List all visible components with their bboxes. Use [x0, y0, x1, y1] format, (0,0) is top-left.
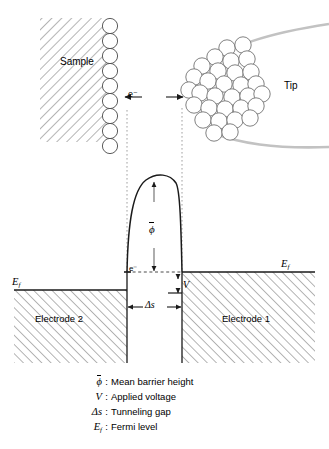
electron-label-top: e⁻ [128, 89, 138, 99]
legend-item-phi: ϕ : Mean barrier height [76, 376, 306, 391]
tip-label: Tip [284, 80, 298, 91]
fermi-right-subscript: f [287, 263, 289, 271]
legend-colon: : [102, 406, 111, 417]
legend-item-voltage: V : Applied voltage [76, 391, 306, 406]
legend-colon: : [102, 421, 111, 432]
applied-voltage-arrow [168, 274, 182, 293]
applied-voltage-label: V [183, 279, 189, 290]
legend-symbol-voltage: V [76, 391, 102, 402]
legend-description-voltage: Applied voltage [111, 391, 176, 402]
tunneling-gap-label: Δs [145, 299, 155, 310]
electron-label-energy-diagram: e⁻ [129, 264, 137, 273]
legend-item-fermi: Ef : Fermi level [76, 421, 306, 436]
stm-tunneling-diagram: Sample Tip e⁻ Electrode 2 Electrode 1 Ef… [0, 0, 329, 449]
sample-block [40, 18, 109, 142]
tip-atom-cluster [181, 37, 270, 141]
electrode-2-label: Electrode 2 [35, 313, 83, 324]
phi-symbol: ϕ [149, 223, 155, 235]
legend-colon: : [102, 391, 111, 402]
sample-label: Sample [60, 56, 94, 67]
fermi-level-left-label: Ef [12, 276, 20, 289]
sample-surface-atoms [102, 18, 117, 153]
legend-description-fermi: Fermi level [111, 421, 157, 432]
legend-description-gap: Tunneling gap [111, 406, 171, 417]
fermi-left-subscript: f [18, 281, 20, 289]
legend: ϕ : Mean barrier height V : Applied volt… [76, 376, 306, 436]
legend-description-phi: Mean barrier height [111, 376, 193, 387]
mean-barrier-height-label: ϕ [149, 223, 155, 235]
fermi-level-right-label: Ef [281, 258, 289, 271]
legend-symbol-gap: Δs [76, 406, 102, 417]
legend-item-gap: Δs : Tunneling gap [76, 406, 306, 421]
legend-colon: : [102, 376, 111, 387]
electrode-1-label: Electrode 1 [222, 313, 270, 324]
legend-symbol-phi: ϕ [76, 376, 102, 387]
legend-symbol-fermi: Ef [76, 421, 102, 434]
